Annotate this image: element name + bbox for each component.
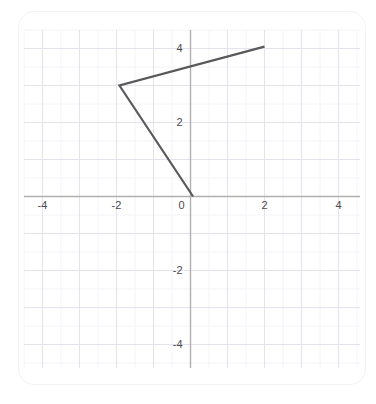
major-gridlines [24,30,360,368]
x-tick-label-0: 0 [178,200,184,211]
x-tick-label-4: 4 [335,200,341,211]
x-tick-label-2: 2 [261,200,267,211]
minor-gridlines [24,30,360,368]
data-polyline [119,47,264,197]
y-tick-label-2: 2 [176,117,182,128]
x-tick-label-neg4: -4 [38,200,48,211]
y-tick-label-4: 4 [176,43,182,54]
y-tick-label-neg2: -2 [173,265,183,276]
coordinate-plane [0,0,376,404]
y-tick-label-neg4: -4 [173,339,183,350]
graph-figure: -4-2024-4-224 [0,0,376,404]
x-tick-label-neg2: -2 [112,200,122,211]
